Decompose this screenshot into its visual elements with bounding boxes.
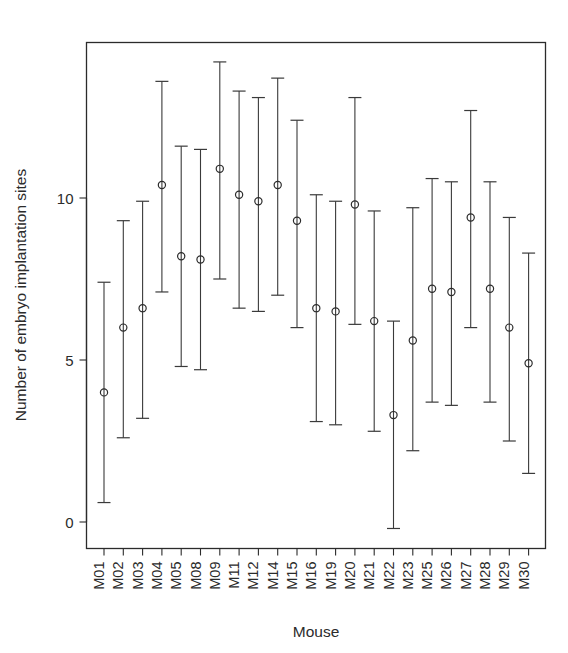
data-point-group [426,179,439,403]
error-bar-plot: 0510 M01M02M03M04M05M08M09M11M12M14M15M1… [0,0,568,653]
x-axis-tick-label: M15 [284,562,300,590]
x-axis-tick-label: M26 [438,562,454,590]
data-point-group [348,98,361,325]
x-axis-tick-label: M02 [110,562,126,590]
data-point-group [98,282,111,502]
x-axis-tick-label: M09 [207,562,223,590]
x-axis-tick-label: M23 [400,562,416,590]
data-point-group [329,201,342,425]
data-point-group [175,146,188,366]
data-point-group [233,91,246,308]
data-point-group [213,62,226,279]
x-axis-tick-label: M22 [381,562,397,590]
x-axis-tick-label: M19 [323,562,339,590]
x-axis-tick-label: M11 [226,562,242,589]
x-axis-title: Mouse [293,623,340,640]
x-axis-tick-label: M25 [419,562,435,590]
data-point-group [445,182,458,406]
data-point-group [291,120,304,327]
data-point-group [271,78,284,295]
data-series-error-bars [98,62,536,529]
x-axis-tick-label: M01 [91,562,107,590]
data-point-group [387,321,400,528]
x-axis-tick-label: M21 [361,562,377,590]
data-point-group [503,217,516,441]
x-axis-tick-label: M04 [149,562,165,590]
data-point-group [252,98,265,312]
y-axis-tick-label: 5 [65,352,73,369]
data-point-group [368,211,381,431]
y-axis-title: Number of embryo implantation sites [12,169,29,422]
y-axis: 0510 [57,190,87,531]
y-axis-tick-label: 10 [57,190,74,207]
data-point-group [464,111,477,328]
y-axis-tick-label: 0 [65,514,73,531]
x-axis-tick-label: M08 [188,562,204,590]
data-point-group [522,253,535,473]
data-point-group [406,208,419,451]
x-axis-tick-label: M12 [245,562,261,590]
data-point-group [484,182,497,402]
x-axis: M01M02M03M04M05M08M09M11M12M14M15M16M19M… [91,549,532,590]
x-axis-tick-label: M30 [516,562,532,590]
chart-container: 0510 M01M02M03M04M05M08M09M11M12M14M15M1… [0,0,568,653]
data-point-group [194,149,207,369]
data-point-group [310,195,323,422]
x-axis-tick-label: M03 [130,562,146,590]
x-axis-tick-label: M05 [168,562,184,590]
x-axis-tick-label: M14 [265,562,281,590]
x-axis-tick-label: M16 [303,562,319,590]
data-point-group [155,81,168,292]
x-axis-tick-label: M27 [458,562,474,590]
data-point-group [117,221,130,438]
data-point-group [136,201,149,418]
x-axis-tick-label: M29 [496,562,512,590]
x-axis-tick-label: M20 [342,562,358,590]
x-axis-tick-label: M28 [477,562,493,590]
